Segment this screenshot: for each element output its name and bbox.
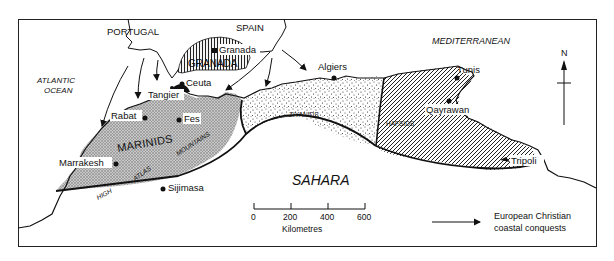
svg-text:200: 200 [283, 212, 297, 222]
svg-text:Sijimasa: Sijimasa [168, 182, 205, 193]
sea-label-mediterranean: MEDITERRANEAN [432, 36, 511, 46]
svg-text:European Christian: European Christian [494, 211, 571, 221]
svg-text:Ceuta: Ceuta [186, 77, 212, 88]
city-granada: Granada [212, 44, 260, 55]
svg-text:Tunis: Tunis [457, 64, 480, 75]
svg-text:0: 0 [251, 212, 256, 222]
svg-text:600: 600 [357, 212, 371, 222]
city-sijimasa: Sijimasa [161, 182, 214, 193]
svg-text:Tripoli: Tripoli [511, 155, 537, 166]
svg-text:coastal conquests: coastal conquests [494, 223, 567, 233]
svg-text:N: N [561, 48, 568, 58]
region-label-granada: GRANADA [188, 58, 238, 69]
country-label-spain: SPAIN [236, 22, 264, 33]
region-label-hafsids: HAFSIDS [386, 120, 415, 127]
desert-label-sahara: SAHARA [292, 172, 350, 188]
sea-label-ocean: OCEAN [44, 86, 73, 95]
svg-text:Tangier: Tangier [148, 89, 179, 100]
sea-label-atlantic: ATLANTIC [36, 76, 75, 85]
svg-text:Kilometres: Kilometres [282, 224, 322, 234]
map: PORTUGAL SPAIN ATLANTIC OCEAN MEDITERRAN… [0, 0, 614, 261]
city-marrakesh: Marrakesh [58, 157, 119, 168]
svg-text:Rabat: Rabat [111, 110, 137, 121]
region-label-ziyanids: ZIYANIDS [289, 111, 319, 118]
svg-text:400: 400 [320, 212, 334, 222]
svg-text:Fes: Fes [184, 113, 200, 124]
city-rabat: Rabat [110, 110, 148, 121]
svg-text:Granada: Granada [219, 44, 257, 55]
country-label-portugal: PORTUGAL [107, 26, 159, 37]
svg-text:Marrakesh: Marrakesh [59, 157, 104, 168]
city-tangier: Tangier [146, 86, 184, 100]
svg-text:Qayrawan: Qayrawan [426, 104, 469, 115]
svg-text:Algiers: Algiers [318, 61, 347, 72]
